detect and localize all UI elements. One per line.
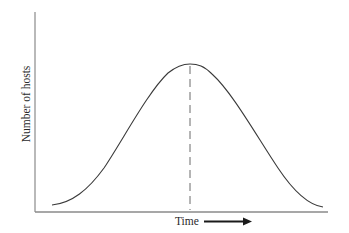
host-count-curve [52, 64, 323, 207]
y-axis-label: Number of hosts [20, 65, 32, 142]
time-arrow-icon [204, 218, 252, 226]
x-axis-label: Time [175, 215, 199, 227]
host-population-diagram: Number of hosts Time [0, 0, 349, 233]
